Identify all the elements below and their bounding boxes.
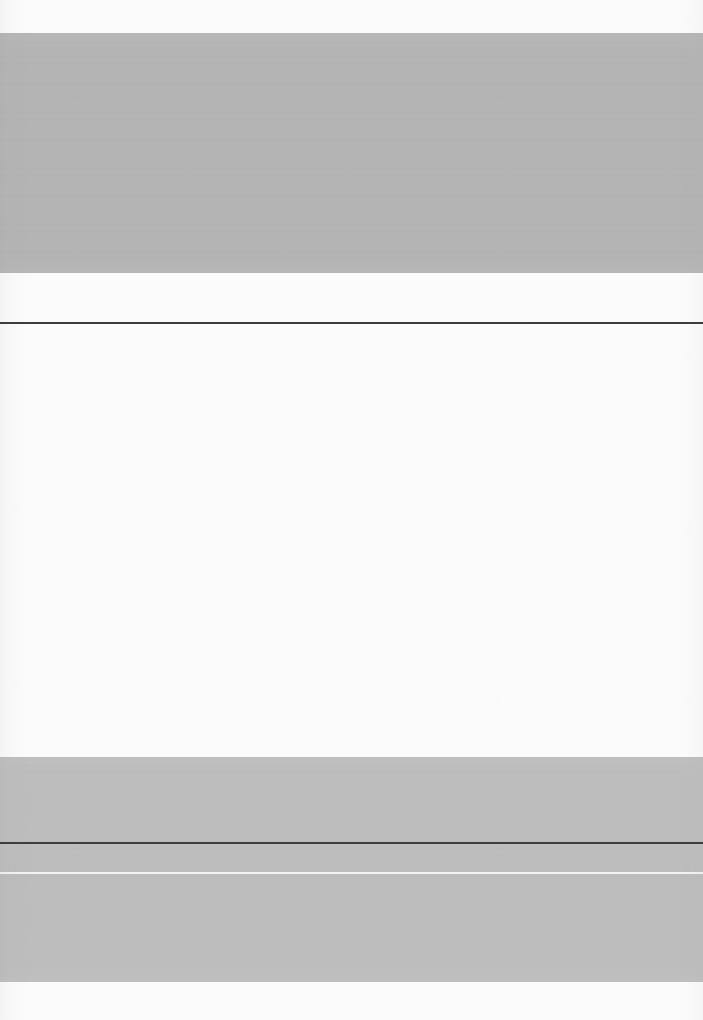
- header-rule: [0, 322, 703, 324]
- upper-gap: [0, 273, 703, 322]
- footer-rule-light: [0, 872, 703, 874]
- body-area: [0, 324, 703, 757]
- top-margin: [0, 0, 703, 33]
- lower-gray-band: [0, 757, 703, 982]
- bottom-margin: [0, 982, 703, 1020]
- footer-rule-dark: [0, 842, 703, 844]
- upper-gray-band: [0, 33, 703, 273]
- scanned-page: [0, 0, 703, 1020]
